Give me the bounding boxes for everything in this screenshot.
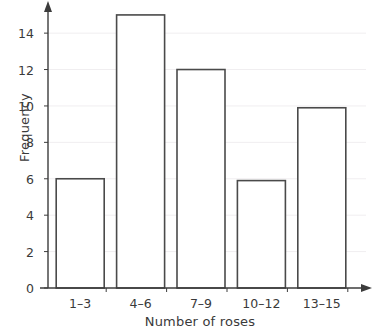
x-axis-tick-label: 10–12 — [242, 296, 280, 311]
bar — [298, 108, 346, 288]
x-axis-tick-label: 7–9 — [190, 296, 212, 311]
bar — [177, 70, 225, 288]
y-axis-arrow-icon — [44, 1, 52, 12]
histogram-chart: 02468101214 Frequency Number of roses 1–… — [0, 0, 376, 335]
bar — [117, 15, 165, 288]
plot-area — [0, 0, 376, 335]
bar-series — [56, 15, 346, 288]
x-axis-tick-label: 13–15 — [303, 296, 341, 311]
x-axis-tick-label: 1–3 — [69, 296, 91, 311]
bar — [237, 181, 285, 288]
x-axis-arrow-icon — [361, 284, 372, 292]
x-axis-tick-label: 4–6 — [130, 296, 152, 311]
bar — [56, 179, 104, 288]
